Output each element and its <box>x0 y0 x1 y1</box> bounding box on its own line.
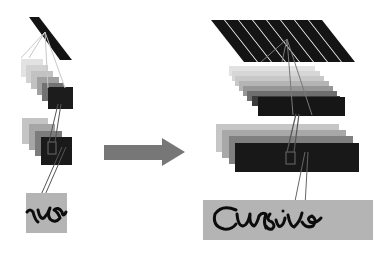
right-network <box>203 20 373 240</box>
left-feature-stack-2 <box>22 118 72 165</box>
left-filter-bar <box>29 17 72 60</box>
right-feature-stack-1 <box>229 66 345 116</box>
transform-arrow <box>104 138 185 166</box>
left-network <box>21 17 73 233</box>
diagram-canvas <box>0 0 389 253</box>
right-input-image <box>203 200 373 240</box>
left-input-image <box>26 193 67 233</box>
